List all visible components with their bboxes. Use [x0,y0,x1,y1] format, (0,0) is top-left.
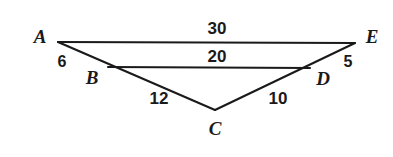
segment-AC [58,42,215,110]
segment-AE [58,42,355,43]
length-label-BC: 12 [150,90,169,107]
length-label-AB: 6 [58,54,67,70]
vertex-label-E: E [366,27,379,46]
length-label-BD: 20 [208,48,227,65]
vertex-label-D: D [316,69,330,88]
length-label-DE: 5 [344,54,353,70]
figure-canvas [0,0,393,157]
segment-BD [108,67,310,68]
vertex-label-A: A [34,27,47,46]
vertex-label-B: B [86,68,99,87]
length-label-CD: 10 [269,90,288,107]
geometry-figure: A B C D E 30 20 6 5 12 10 [0,0,393,157]
vertex-label-C: C [209,119,222,138]
length-label-AE: 30 [208,20,227,37]
